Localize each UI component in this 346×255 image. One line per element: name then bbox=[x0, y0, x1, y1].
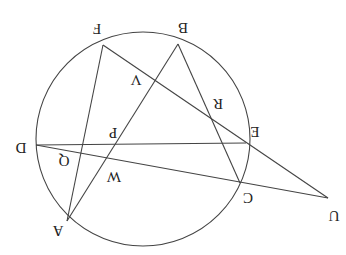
geometry-diagram: F B V R E P D Q W C A U bbox=[0, 0, 346, 255]
label-C: C bbox=[243, 190, 253, 206]
label-V: V bbox=[130, 72, 141, 88]
label-U: U bbox=[328, 208, 339, 224]
segment-FA bbox=[67, 45, 103, 221]
segment-DU bbox=[36, 145, 328, 198]
segment-FU bbox=[103, 45, 328, 198]
label-A: A bbox=[52, 223, 63, 239]
segment-BA bbox=[67, 44, 178, 221]
label-R: R bbox=[213, 96, 223, 112]
label-D: D bbox=[15, 140, 26, 156]
label-E: E bbox=[250, 124, 259, 140]
segment-BC bbox=[178, 44, 240, 183]
label-Q: Q bbox=[58, 153, 69, 169]
label-F: F bbox=[93, 21, 101, 37]
label-B: B bbox=[178, 20, 188, 36]
label-W: W bbox=[106, 169, 121, 185]
segment-DE bbox=[36, 143, 246, 145]
label-P: P bbox=[109, 125, 117, 141]
